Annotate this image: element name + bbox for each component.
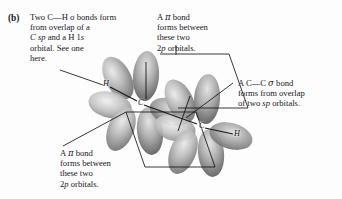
callout-line: of two sp orbitals. (238, 98, 305, 108)
callout-line: A C—C σ bond (238, 78, 305, 88)
atom-label-C-right: C (199, 121, 204, 130)
atom-label-C-left: C (138, 98, 143, 107)
callout-line: 2p orbitals. (60, 179, 111, 189)
callout-line: A π bond (60, 148, 111, 158)
callout-line: C sp and a H 1s (30, 32, 116, 42)
atom-label-H-right: H (234, 129, 240, 138)
sigma-CC-callout: A C—C σ bond forms from overlap of two s… (238, 78, 305, 109)
callout-line: 2p orbitals. (157, 43, 208, 53)
leader-sigma-CH (60, 70, 103, 85)
callout-line: from overlap of a (30, 22, 116, 32)
pi-bond-top-callout: A π bond forms between these two 2p orbi… (157, 12, 208, 53)
callout-line: these two (157, 32, 208, 42)
callout-line: forms from overlap (238, 88, 305, 98)
callout-line: here. (30, 53, 116, 63)
atom-label-H-left: H (103, 79, 109, 88)
orbital-lobe-2p (192, 73, 221, 125)
callout-line: A π bond (157, 12, 208, 22)
callout-line: forms between (157, 22, 208, 32)
sigma-CH-callout: Two C—H σ bonds form from overlap of a C… (30, 12, 116, 63)
callout-line: these two (60, 168, 111, 178)
callout-line: Two C—H σ bonds form (30, 12, 116, 22)
callout-line: forms between (60, 158, 111, 168)
callout-line: orbital. See one (30, 43, 116, 53)
pi-bond-bottom-callout: A π bond forms between these two 2p orbi… (60, 148, 111, 189)
